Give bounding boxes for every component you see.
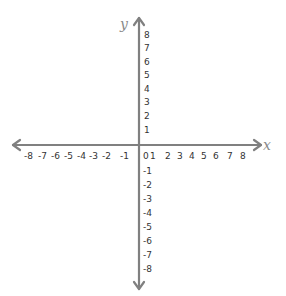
y-tick-label: -1	[143, 166, 152, 176]
y-tick-label: -7	[143, 250, 152, 260]
y-axis-label: y	[120, 17, 128, 31]
x-tick-label: 3	[177, 151, 183, 161]
x-tick-label: 8	[240, 151, 246, 161]
y-tick-label: 1	[144, 125, 150, 135]
x-tick-label: 0	[143, 151, 149, 161]
x-tick-label: 2	[165, 151, 171, 161]
x-tick-label: -6	[51, 151, 60, 161]
y-tick-label: -2	[143, 180, 152, 190]
y-tick-label: 8	[144, 30, 150, 40]
y-tick-label: -5	[143, 222, 152, 232]
x-tick-label: 5	[201, 151, 207, 161]
y-tick-label: -8	[143, 264, 152, 274]
y-tick-label: 3	[144, 97, 150, 107]
x-tick-label: -4	[77, 151, 86, 161]
y-tick-label: 5	[144, 70, 150, 80]
x-tick-label: 1	[150, 151, 156, 161]
x-tick-label: -8	[24, 151, 33, 161]
x-axis-label: x	[263, 138, 271, 152]
x-tick-label: 7	[227, 151, 233, 161]
x-tick-label: -3	[89, 151, 98, 161]
y-tick-label: 6	[144, 57, 150, 67]
x-axis	[13, 140, 261, 150]
x-tick-label: -7	[38, 151, 47, 161]
y-tick-label: 7	[144, 43, 150, 53]
y-tick-label: -6	[143, 236, 152, 246]
y-tick-label: 4	[144, 84, 150, 94]
y-tick-label: -3	[143, 194, 152, 204]
x-tick-label: -5	[64, 151, 73, 161]
x-tick-label: -1	[120, 151, 129, 161]
x-tick-label: -2	[102, 151, 111, 161]
x-tick-label: 4	[189, 151, 195, 161]
y-tick-label: 2	[144, 111, 150, 121]
y-tick-label: -4	[143, 208, 152, 218]
x-tick-label: 6	[213, 151, 219, 161]
